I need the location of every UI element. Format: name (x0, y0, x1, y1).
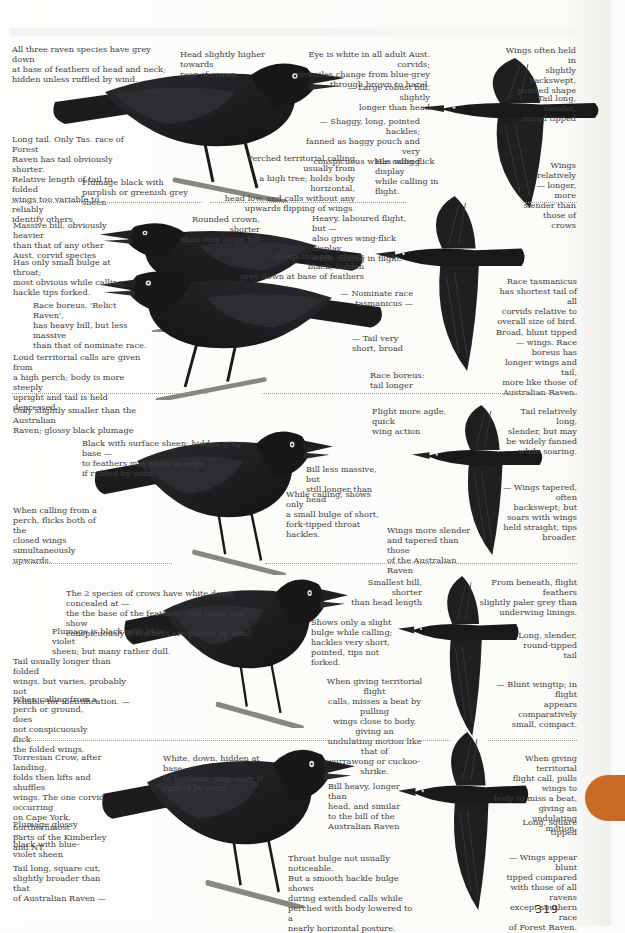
note-wings-tapered: — Wings tapered, often backswept; but so… (493, 482, 577, 542)
note-slender-wings: Wings more slender and tapered than thos… (387, 525, 472, 575)
section-divider (12, 740, 450, 741)
bleed-through-text (10, 28, 580, 36)
section-divider (262, 393, 577, 394)
note-blunt-wingtip: — Blunt wingtip; in flight appears compa… (490, 679, 577, 729)
note-massive-bill: Massive bill, obviously heavier than tha… (13, 220, 123, 260)
note-head: Head slightly higher towards rear of cro… (180, 49, 290, 79)
note-white-down: White, down, hidden at base — of feather… (163, 753, 273, 793)
note-square-tail: Tail long, square cut, slightly broader … (13, 863, 118, 903)
note-throat: Has only small bulge at throat; most obv… (13, 257, 128, 297)
note-boreus: Race boreus, 'Relict Raven', has heavy b… (33, 300, 148, 350)
note-bill: — Large robust bill, slightly longer tha… (330, 82, 430, 112)
note-tasmanicus-tail: Race tasmanicus has shortest tail of all… (495, 276, 577, 326)
note-size: Only slightly smaller than the Australia… (13, 405, 163, 435)
note-deep-black: — Deep, intense, glossy black; hidden gr… (238, 251, 364, 281)
note-agile: Flight more agile, quick wing action (372, 406, 457, 436)
note-grey-down: All three raven species have grey down a… (12, 44, 172, 84)
page-number: 319 (535, 903, 559, 916)
section-divider (12, 202, 202, 203)
note-round-tail: Long, slender, round-tipped tail (510, 630, 577, 660)
section-divider (12, 393, 207, 394)
note-square-tipped: Long, square tipped (500, 817, 577, 837)
section-divider (12, 563, 172, 564)
note-throat-bulge: Throat bulge not usually noticeable. But… (288, 853, 418, 933)
section-divider (522, 202, 577, 203)
note-nominate: — Nominate race tasmanicus — (338, 288, 413, 308)
note-wings-backswept: Wings often held in slightly backswept, … (500, 45, 576, 95)
note-boreus-tail: Race boreus: tail longer (370, 370, 425, 390)
note-paler-grey: From beneath, flight feathers slightly p… (474, 577, 577, 617)
note-tail-flight: Tail long, slender, round tipped (506, 93, 576, 123)
note-tail-short: — Tail very short, broad (352, 333, 412, 353)
note-flicks-wings: When calling from a perch, flicks both o… (13, 505, 98, 565)
note-calling-bulge: While calling, shows only a small bulge … (286, 489, 381, 539)
section-thumb-tab (585, 775, 625, 821)
note-blue-violet: Plumage is black with blue-violet sheen;… (52, 626, 172, 656)
note-loud-calls: Loud territorial calls are given from a … (13, 352, 143, 412)
note-bill-heavy: Bill heavy, longer than head, and simila… (328, 781, 408, 831)
note-wing-flick: Has wing-flick display while calling in … (375, 156, 465, 196)
note-tail-fanned: Tail relatively long, slender, but may b… (505, 406, 577, 456)
note-surface-sheen: Black with surface sheen; hidden grey ba… (82, 438, 242, 478)
note-smallest-bill: Smallest bill, shorter than head length (340, 577, 422, 607)
note-glossy: Plumage glossy — black with blue- violet… (13, 819, 88, 859)
note-blunt-tipped: — Wings appear blunt tipped compared wit… (490, 852, 577, 932)
note-no-flick: When calling from a perch or ground, doe… (13, 694, 103, 754)
note-perched-calling: Perched territorial calling usually from… (220, 153, 355, 213)
note-crown: Rounded crown, shorter than very large b… (170, 214, 260, 244)
note-slight-bulge: Shows only a slight bulge while calling;… (311, 617, 396, 667)
note-broad-wings: Broad, blunt tipped — wings. Race boreus… (495, 327, 577, 397)
section-divider (265, 563, 577, 564)
